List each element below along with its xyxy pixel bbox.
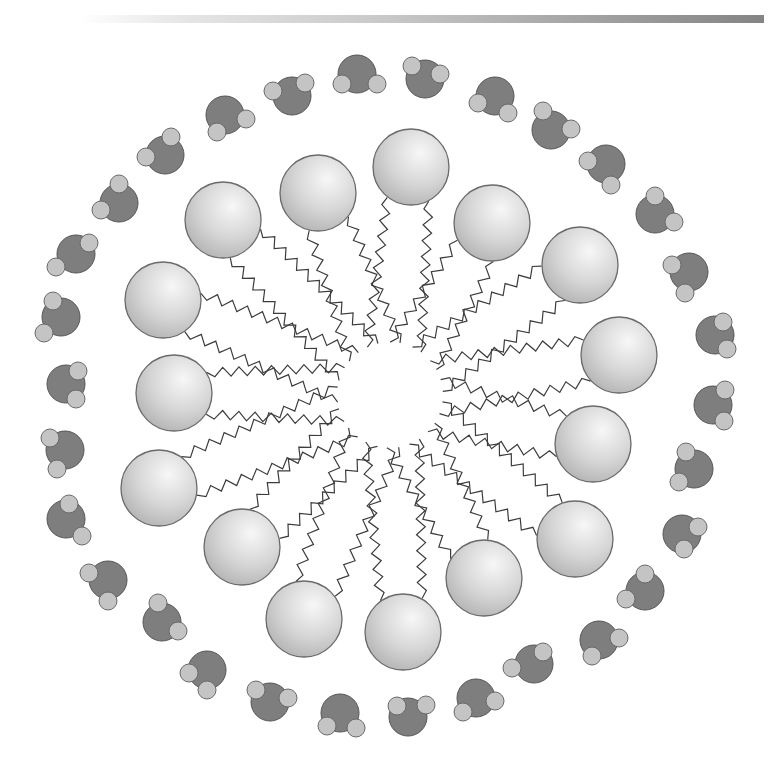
surfactant-tail bbox=[443, 301, 565, 392]
surfactant-tail bbox=[280, 446, 378, 538]
surfactant-tail bbox=[206, 411, 344, 426]
surfactant-head bbox=[555, 406, 631, 482]
hydrogen-atom bbox=[198, 681, 216, 699]
water-molecule bbox=[247, 681, 297, 721]
surfactant-head bbox=[373, 129, 449, 205]
hydrogen-atom bbox=[279, 689, 297, 707]
hydrogen-atom bbox=[636, 565, 654, 583]
hydrogen-atom bbox=[665, 213, 683, 231]
water-molecule bbox=[47, 234, 98, 276]
water-molecule bbox=[41, 429, 84, 478]
hydrogen-atom bbox=[579, 152, 597, 170]
surfactant-head bbox=[185, 182, 261, 258]
surfactant-tail bbox=[363, 442, 384, 601]
surfactant-head bbox=[365, 594, 441, 670]
water-molecule bbox=[333, 55, 386, 93]
hydrogen-atom bbox=[417, 696, 435, 714]
hydrogen-atom bbox=[431, 65, 449, 83]
hydrogen-atom bbox=[715, 412, 733, 430]
hydrogen-atom bbox=[73, 527, 91, 545]
hydrogen-atom bbox=[162, 128, 180, 146]
surfactant-tail bbox=[443, 402, 563, 503]
water-molecule bbox=[694, 381, 734, 430]
micelle-diagram bbox=[0, 0, 777, 763]
water-molecule bbox=[454, 679, 504, 721]
hydrogen-atom bbox=[670, 473, 688, 491]
hydrogen-atom bbox=[663, 256, 681, 274]
hydrogen-atom bbox=[503, 659, 521, 677]
hydrophilic-heads bbox=[121, 129, 657, 670]
water-molecule bbox=[670, 443, 713, 491]
surfactant-tail bbox=[390, 240, 457, 342]
hydrogen-atom bbox=[617, 590, 635, 608]
hydrogen-atom bbox=[67, 390, 85, 408]
water-molecule bbox=[143, 594, 187, 641]
surfactant-head bbox=[581, 317, 657, 393]
hydrogen-atom bbox=[208, 123, 226, 141]
hydrogen-atom bbox=[499, 104, 517, 122]
hydrogen-atom bbox=[169, 622, 187, 640]
hydrogen-atom bbox=[689, 518, 707, 536]
hydrogen-atom bbox=[41, 429, 59, 447]
hydrogen-atom bbox=[368, 75, 386, 93]
hydrogen-atom bbox=[247, 681, 265, 699]
hydrogen-atom bbox=[60, 495, 78, 513]
surfactant-head bbox=[125, 262, 201, 338]
surfactant-tail bbox=[415, 439, 426, 598]
surfactant-tail bbox=[436, 262, 493, 370]
water-molecule bbox=[617, 565, 664, 610]
water-molecule bbox=[503, 643, 553, 683]
water-molecule bbox=[92, 175, 138, 222]
hydrogen-atom bbox=[486, 692, 504, 710]
water-molecule bbox=[137, 128, 184, 174]
hydrogen-atom bbox=[110, 175, 128, 193]
surfactant-tail bbox=[365, 197, 390, 347]
hydrogen-atom bbox=[92, 201, 110, 219]
hydrogen-atom bbox=[149, 594, 167, 612]
water-molecule bbox=[206, 96, 255, 141]
water-molecule bbox=[636, 187, 683, 233]
surfactant-tail bbox=[410, 444, 537, 535]
surfactant-head bbox=[204, 509, 280, 585]
hydrogen-atom bbox=[610, 629, 628, 647]
water-molecule bbox=[80, 561, 127, 610]
hydrogen-atom bbox=[137, 148, 155, 166]
water-molecule bbox=[403, 57, 449, 98]
hydrogen-atom bbox=[714, 313, 732, 331]
hydrogen-atom bbox=[80, 564, 98, 582]
hydrogen-atom bbox=[44, 292, 62, 310]
surfactant-tail bbox=[428, 429, 557, 458]
hydrogen-atom bbox=[716, 381, 734, 399]
hydrogen-atom bbox=[99, 592, 117, 610]
water-molecule bbox=[35, 292, 80, 342]
surfactant-tail bbox=[307, 231, 351, 362]
hydrogen-atom bbox=[583, 647, 601, 665]
surfactant-head bbox=[446, 540, 522, 616]
hydrogen-atom bbox=[69, 362, 87, 380]
hydrogen-atom bbox=[48, 460, 66, 478]
hydrogen-atom bbox=[718, 340, 736, 358]
water-molecule bbox=[180, 651, 226, 699]
surfactant-head bbox=[537, 501, 613, 577]
water-molecule bbox=[663, 515, 707, 558]
water-molecule bbox=[47, 495, 91, 545]
surfactant-tail bbox=[335, 447, 400, 596]
water-molecule bbox=[696, 313, 736, 358]
hydrogen-atom bbox=[562, 120, 580, 138]
hydrogen-atom bbox=[602, 176, 620, 194]
hydrogen-atom bbox=[469, 94, 487, 112]
hydrogen-atom bbox=[347, 719, 365, 737]
surfactant-head bbox=[266, 581, 342, 657]
surfactant-head bbox=[542, 227, 618, 303]
water-molecule bbox=[469, 77, 517, 122]
hydrogen-atom bbox=[388, 697, 406, 715]
surfactant-head bbox=[454, 185, 530, 261]
surfactant-head bbox=[121, 450, 197, 526]
water-molecule bbox=[532, 102, 580, 149]
hydrogen-atom bbox=[403, 57, 421, 75]
water-molecule bbox=[47, 362, 87, 408]
hydrogen-atom bbox=[47, 258, 65, 276]
hydrogen-atom bbox=[454, 703, 472, 721]
hydrogen-atom bbox=[534, 643, 552, 661]
surfactant-head bbox=[136, 355, 212, 431]
